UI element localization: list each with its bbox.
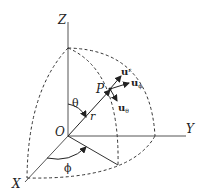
u-phi-label: uϕ: [131, 77, 142, 90]
radius-label: r: [90, 110, 96, 123]
y-axis-label: Y: [186, 122, 195, 136]
u-theta-vector: [110, 89, 117, 101]
spherical-coordinates-diagram: Z Y X O P r θ ϕ ur uϕ uθ: [0, 0, 205, 194]
x-axis-label: X: [11, 177, 21, 191]
u-r-label: ur: [121, 66, 131, 77]
u-theta-label: uθ: [118, 102, 129, 114]
theta-label: θ: [72, 97, 79, 110]
phi-label: ϕ: [64, 162, 72, 175]
point-p-dot: [108, 87, 111, 90]
point-p-label: P: [95, 82, 105, 96]
sphere-arc-xy: [27, 136, 155, 178]
z-axis-label: Z: [57, 13, 67, 27]
phi-arc: [47, 147, 86, 159]
origin-label: O: [55, 125, 65, 139]
projection-line: [68, 136, 118, 165]
